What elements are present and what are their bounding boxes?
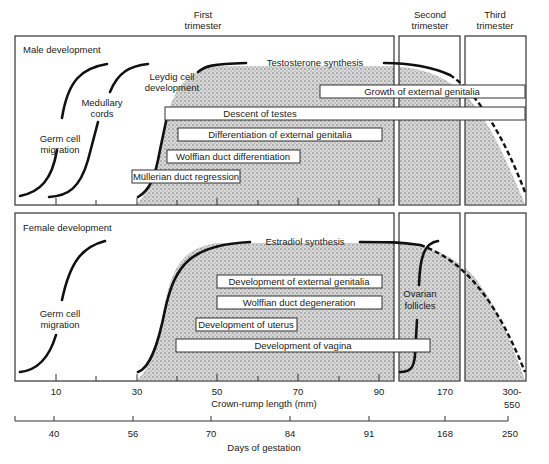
leydig-label-2: development — [145, 82, 200, 93]
female-bar: Development of vagina — [176, 339, 430, 352]
male-bar: Wolffian duct differentiation — [167, 150, 300, 163]
bar-development-of-uterus: Development of uterus — [198, 319, 294, 330]
estradiol-area — [137, 243, 520, 380]
male-germ-cell-label-1: Germ cell — [40, 133, 81, 144]
male-germ-cell-curve — [20, 64, 107, 196]
second-trimester-line2: trimester — [412, 20, 449, 31]
female-panel-title: Female development — [23, 222, 112, 233]
ovarian-label-2: follicles — [404, 300, 435, 311]
male-bar: Differentiation of external genitalia — [178, 128, 382, 141]
male-bar: Growth of external genitalia — [320, 85, 525, 98]
crl-tick-label: 70 — [293, 386, 304, 397]
gestation-tick-label: 84 — [285, 428, 296, 439]
male-panel: Male development Germ cell migration Med… — [15, 36, 526, 205]
crown-rump-axis: 10 30 50 70 90 170 300- 550 Crown-rump l… — [51, 386, 522, 410]
crl-tick-label: 300- — [502, 386, 521, 397]
first-trimester-line2: trimester — [185, 20, 222, 31]
gestation-tick-label: 40 — [49, 428, 60, 439]
bar-growth-external-genitalia: Growth of external genitalia — [364, 86, 480, 97]
crl-tick-label: 550 — [504, 399, 520, 410]
medullary-label-1: Medullary — [81, 97, 122, 108]
bar-development-external-genitalia: Development of external genitalia — [228, 276, 370, 287]
gestation-tick-label: 250 — [502, 428, 518, 439]
leydig-label-1: Leydig cell — [150, 71, 195, 82]
crl-tick-label: 90 — [374, 386, 385, 397]
bar-development-of-vagina: Development of vagina — [254, 340, 352, 351]
sexual-differentiation-diagram: First trimester Second trimester Third t… — [0, 0, 549, 464]
bar-mullerian-duct-regression: Müllerian duct regression — [133, 171, 239, 182]
female-panel: Female development Germ cell migration E… — [15, 213, 526, 381]
crl-tick-label: 30 — [132, 386, 143, 397]
gestation-axis-title: Days of gestation — [227, 442, 300, 453]
crl-tick-label: 50 — [212, 386, 223, 397]
third-trimester-line1: Third — [484, 9, 506, 20]
female-bar: Development of uterus — [196, 318, 297, 331]
gestation-tick-label: 168 — [437, 428, 453, 439]
gestation-axis: 40 56 70 84 91 168 250 Days of gestation — [15, 416, 518, 453]
crl-tick-label: 170 — [437, 386, 453, 397]
first-trimester-line1: First — [194, 9, 213, 20]
bar-descent-of-testes: Descent of testes — [223, 108, 297, 119]
gestation-tick-label: 70 — [206, 428, 217, 439]
female-bar: Development of external genitalia — [217, 275, 382, 288]
testosterone-synthesis-label: Testosterone synthesis — [267, 57, 364, 68]
male-panel-title: Male development — [23, 44, 101, 55]
bar-differentiation-external-genitalia: Differentiation of external genitalia — [208, 129, 352, 140]
female-germ-cell-label-1: Germ cell — [40, 308, 81, 319]
estradiol-synthesis-label: Estradiol synthesis — [265, 236, 344, 247]
bar-wolffian-duct-differentiation: Wolffian duct differentiation — [176, 151, 290, 162]
male-bar: Müllerian duct regression — [132, 170, 240, 183]
male-bar: Descent of testes — [165, 107, 525, 120]
gestation-tick-label: 91 — [364, 428, 375, 439]
female-germ-cell-label-2: migration — [40, 319, 79, 330]
bar-wolffian-duct-degeneration: Wolffian duct degeneration — [243, 297, 356, 308]
medullary-label-2: cords — [90, 108, 113, 119]
female-germ-cell-curve — [20, 241, 105, 372]
female-bar: Wolffian duct degeneration — [217, 296, 382, 309]
crl-tick-label: 10 — [51, 386, 62, 397]
third-trimester-line2: trimester — [477, 20, 514, 31]
male-germ-cell-label-2: migration — [40, 144, 79, 155]
second-trimester-line1: Second — [414, 9, 446, 20]
gestation-tick-label: 56 — [128, 428, 139, 439]
crown-rump-axis-title: Crown-rump length (mm) — [211, 398, 317, 409]
ovarian-label-1: Ovarian — [403, 288, 436, 299]
trimester-headers: First trimester Second trimester Third t… — [185, 9, 514, 31]
